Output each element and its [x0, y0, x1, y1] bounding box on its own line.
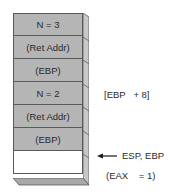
cell-label: (EBP) [35, 134, 60, 145]
stack-cell-n2: N = 2 [13, 82, 83, 105]
stack-cell-empty [13, 151, 83, 174]
stack-side-bevel [83, 13, 89, 185]
cell-label: (EBP) [35, 65, 60, 76]
cell-label: (Ret Addr) [26, 42, 69, 53]
cell-label: N = 3 [37, 19, 60, 30]
stack-cell-ret-addr-2: (Ret Addr) [13, 105, 83, 128]
cell-label: (Ret Addr) [26, 111, 69, 122]
cell-label: N = 2 [37, 88, 60, 99]
stack-cell-ebp-2: (EBP) [13, 128, 83, 151]
stack-cell-ret-addr-1: (Ret Addr) [13, 36, 83, 59]
stack-diagram: N = 3 (Ret Addr) (EBP) N = 2 (Ret Addr) … [13, 13, 83, 174]
stack-bottom-bevel [13, 178, 90, 186]
arrow-left-icon [97, 153, 117, 159]
stack-cell-n3: N = 3 [13, 13, 83, 36]
stack-cell-ebp-1: (EBP) [13, 59, 83, 82]
esp-ebp-label: ESP, EBP [122, 150, 164, 161]
ebp-offset-label: [EBP + 8] [104, 89, 150, 100]
eax-label: (EAX = 1) [106, 170, 155, 181]
